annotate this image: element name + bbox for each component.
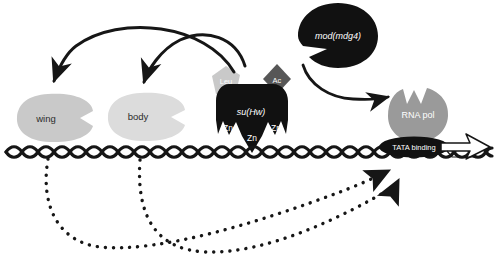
dotted-arrow-wing-to-promoter [46, 159, 386, 248]
diagram-svg: wing body RNA pol Leu Ac su(Hw) Zn Zn [0, 0, 496, 256]
zn-finger-center-label: Zn [247, 133, 257, 143]
blocked-arrow-group [46, 159, 397, 252]
su-hw-label: su(Hw) [237, 107, 266, 117]
body-enhancer-label: body [128, 111, 149, 122]
mod-mdg4-label: mod(mdg4) [315, 31, 361, 41]
su-hw-complex[interactable]: su(Hw) Zn Zn Zn [216, 84, 288, 153]
wing-enhancer-label: wing [35, 113, 56, 124]
tata-binding-label: TATA binding [392, 143, 435, 152]
rna-pol-protein[interactable]: RNA pol [388, 88, 448, 142]
zn-finger-right-label: Zn [271, 123, 281, 133]
mod-mdg4-protein[interactable]: mod(mdg4) [298, 3, 378, 68]
enhancer-group: wing body [17, 93, 185, 142]
rna-pol-label: RNA pol [401, 110, 434, 120]
diagram-canvas: wing body RNA pol Leu Ac su(Hw) Zn Zn [0, 0, 496, 256]
wing-enhancer[interactable]: wing [17, 94, 93, 142]
tata-binding-factor[interactable]: TATA binding [379, 137, 449, 158]
ac-subunit-label: Ac [273, 76, 282, 85]
dotted-arrow-body-to-promoter [140, 160, 397, 252]
arrow-modmdg4-to-rnapol [303, 65, 388, 99]
body-enhancer[interactable]: body [108, 93, 185, 141]
zn-finger-left-label: Zn [223, 123, 233, 133]
